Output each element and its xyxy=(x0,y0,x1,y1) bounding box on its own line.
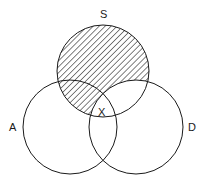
shaded-region-s-minus-d xyxy=(0,0,205,184)
label-a: A xyxy=(9,121,17,133)
label-d: D xyxy=(188,121,196,133)
label-x-center: X xyxy=(98,106,106,118)
label-s: S xyxy=(100,8,107,20)
venn-diagram: S A D X xyxy=(0,0,205,184)
